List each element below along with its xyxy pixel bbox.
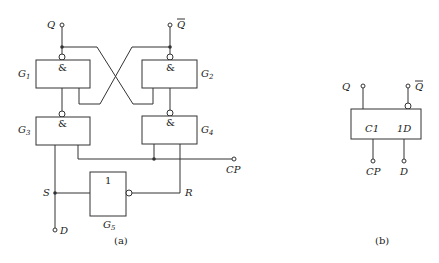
caption-a: (a) [114, 235, 128, 246]
g4-symbol: & [166, 117, 175, 128]
b-cp-label: CP [366, 166, 381, 177]
q-bar-terminal [168, 23, 172, 27]
r-label: R [184, 187, 193, 198]
d-terminal [53, 228, 57, 232]
g5-label: G5 [103, 219, 116, 232]
g4-label: G4 [201, 124, 213, 137]
b-q-bar-terminal [406, 84, 410, 88]
q-terminal [60, 23, 64, 27]
b-d-terminal [402, 159, 406, 163]
g1-label: G1 [18, 68, 30, 81]
1d-label: 1D [397, 123, 411, 134]
panel-b: Q Q C1 1D CP D (b) [342, 81, 423, 246]
s-label: S [43, 187, 50, 198]
d-flip-flop-diagram: Q Q & G1 & G2 & G3 & G4 [0, 0, 439, 263]
b-d-label: D [399, 166, 408, 177]
g1-symbol: & [58, 62, 67, 73]
b-q-label: Q [342, 81, 350, 92]
q-bar-label: Q [177, 19, 185, 30]
cp-label: CP [226, 164, 241, 175]
panel-a: Q Q & G1 & G2 & G3 & G4 [18, 19, 241, 246]
caption-b: (b) [375, 235, 389, 246]
g3-symbol: & [58, 118, 67, 129]
cp-terminal [232, 157, 236, 161]
c1-label: C1 [365, 123, 379, 134]
g5-symbol: 1 [105, 175, 111, 186]
q-label: Q [47, 19, 55, 30]
g2-label: G2 [201, 68, 214, 81]
d-label: D [59, 225, 68, 236]
g2-symbol: & [166, 62, 175, 73]
g3-label: G3 [18, 124, 31, 137]
b-q-terminal [361, 84, 365, 88]
b-q-bar-label: Q [415, 81, 423, 92]
b-cp-terminal [371, 159, 375, 163]
